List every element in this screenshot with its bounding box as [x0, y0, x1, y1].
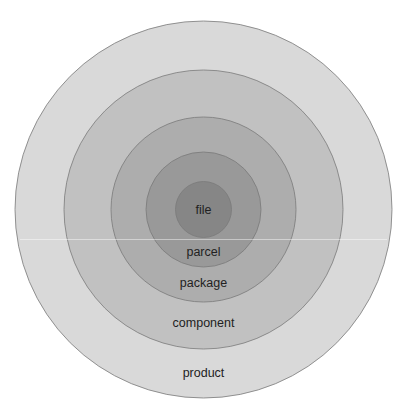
label-package: package [180, 276, 227, 290]
label-parcel: parcel [186, 245, 220, 259]
label-component: component [173, 316, 235, 330]
label-product: product [183, 366, 225, 380]
label-file: file [196, 203, 212, 217]
concentric-hierarchy-diagram: product component package parcel file [0, 0, 403, 416]
